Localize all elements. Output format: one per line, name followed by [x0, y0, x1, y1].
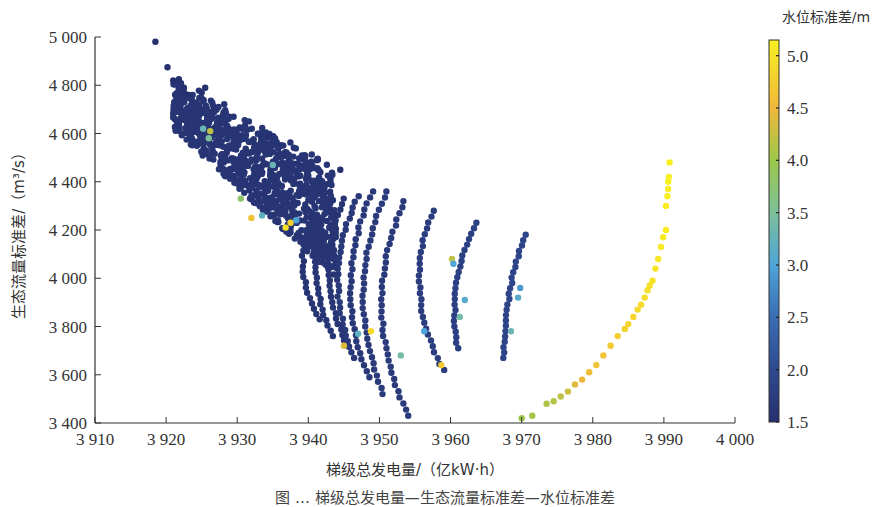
data-point — [396, 210, 402, 216]
data-point — [403, 406, 409, 412]
data-point — [200, 152, 206, 158]
data-point — [360, 305, 366, 311]
data-point — [186, 92, 192, 98]
data-point — [417, 290, 423, 296]
data-point — [200, 126, 206, 132]
data-point — [333, 315, 339, 321]
data-point — [261, 193, 267, 199]
data-point — [270, 162, 276, 168]
data-point — [392, 382, 398, 388]
data-point — [280, 142, 286, 148]
data-point — [308, 159, 314, 165]
data-point — [388, 370, 394, 376]
data-point — [321, 238, 327, 244]
data-point — [381, 272, 387, 278]
data-point — [321, 245, 327, 251]
data-point — [313, 157, 319, 163]
data-point — [251, 145, 257, 151]
data-point — [170, 77, 176, 83]
data-point — [296, 210, 302, 216]
data-point — [428, 213, 434, 219]
data-point — [308, 194, 314, 200]
data-point — [335, 271, 341, 277]
data-point — [400, 400, 406, 406]
data-point — [292, 235, 298, 241]
data-point — [451, 318, 457, 324]
data-point — [327, 200, 333, 206]
data-point — [206, 120, 212, 126]
colorbar-tick-label: 4.0 — [787, 151, 808, 170]
x-tick-label: 3 920 — [147, 430, 185, 449]
data-point — [312, 269, 318, 275]
data-point — [254, 200, 260, 206]
data-point — [217, 160, 223, 166]
colorbar-tick-label: 3.5 — [787, 204, 808, 223]
data-point — [462, 297, 468, 303]
data-point — [388, 235, 394, 241]
data-point — [209, 100, 215, 106]
y-tick-label: 3 600 — [49, 366, 87, 385]
data-point — [257, 130, 263, 136]
data-point — [382, 194, 388, 200]
data-point — [181, 85, 187, 91]
data-point — [454, 274, 460, 280]
data-point — [337, 249, 343, 255]
data-point — [341, 343, 347, 349]
data-point — [361, 280, 367, 286]
x-tick-label: 3 990 — [645, 430, 683, 449]
data-point — [501, 349, 507, 355]
colorbar-tick-label: 5.0 — [787, 47, 808, 66]
data-point — [638, 302, 644, 308]
data-point — [398, 352, 404, 358]
data-point — [452, 285, 458, 291]
colorbar-bar — [769, 40, 779, 422]
data-point — [266, 133, 272, 139]
data-point — [253, 176, 259, 182]
data-point — [520, 237, 526, 243]
data-point — [251, 136, 257, 142]
data-point — [364, 336, 370, 342]
data-point — [330, 333, 336, 339]
y-tick-label: 4 600 — [49, 125, 87, 144]
data-point — [335, 266, 341, 272]
data-point — [388, 364, 394, 370]
data-point — [324, 322, 330, 328]
data-point — [558, 393, 564, 399]
data-point — [418, 296, 424, 302]
data-point — [350, 248, 356, 254]
data-point — [222, 107, 228, 113]
data-point — [237, 124, 243, 130]
data-point — [291, 145, 297, 151]
data-point — [334, 293, 340, 299]
data-point — [356, 230, 362, 236]
data-point — [337, 206, 343, 212]
data-point — [348, 302, 354, 308]
data-point — [471, 225, 477, 231]
data-point — [324, 162, 330, 168]
data-point — [363, 250, 369, 256]
data-point — [425, 219, 431, 225]
data-point — [417, 284, 423, 290]
data-point — [375, 379, 381, 385]
data-point — [252, 165, 258, 171]
data-point — [329, 169, 335, 175]
data-point — [327, 178, 333, 184]
data-point — [370, 188, 376, 194]
data-point — [304, 206, 310, 212]
data-point — [379, 327, 385, 333]
data-point — [220, 115, 226, 121]
data-point — [376, 207, 382, 213]
y-tick-label: 3 800 — [49, 318, 87, 337]
data-point — [453, 280, 459, 286]
data-point — [326, 255, 332, 261]
data-point — [329, 299, 335, 305]
data-point — [458, 258, 464, 264]
data-point — [347, 296, 353, 302]
data-point — [370, 225, 376, 231]
data-point — [341, 195, 347, 201]
data-point — [210, 156, 216, 162]
data-point — [347, 284, 353, 290]
data-point — [220, 170, 226, 176]
data-point — [360, 299, 366, 305]
data-point — [361, 287, 367, 293]
